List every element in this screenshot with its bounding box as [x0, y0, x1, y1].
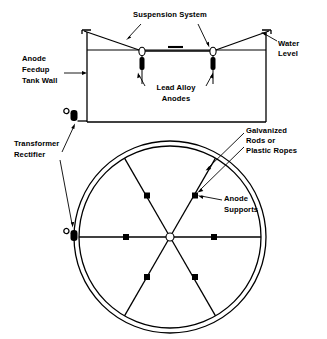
label-transformer-line1: Transformer [14, 139, 59, 148]
label-galvanized-line1: Galvanized [246, 126, 287, 135]
label-transformer-line2: Rectifier [14, 150, 45, 159]
lead-alloy-anode-right [211, 57, 216, 70]
label-galvanized-line2: Rods or [246, 136, 275, 145]
rectifier-terminal-elevation [64, 108, 69, 113]
label-anode-feedup-line3: Tank Wall [22, 76, 58, 85]
plan-view [60, 124, 266, 334]
diagram-canvas: Suspension System Water Level Anode Feed… [0, 0, 327, 339]
leader-anode-supports [201, 196, 222, 200]
plan-anode-marker-6 [192, 193, 198, 199]
arrowhead-transformer-upper [71, 124, 75, 130]
leader-transformer-upper [62, 126, 74, 152]
label-anode-feedup-line2: Feedup [22, 65, 50, 74]
label-water-level-line1: Water [278, 39, 299, 48]
lead-alloy-anode-left [140, 57, 145, 70]
label-lead-alloy-line1: Lead Alloy [156, 83, 196, 92]
leader-galvanized-upper [208, 133, 244, 168]
suspension-cable-left [84, 31, 142, 51]
leader-suspension-left [128, 24, 141, 38]
label-anode-feedup-line1: Anode [22, 54, 46, 63]
arrowhead-anode-supports [198, 196, 203, 199]
transformer-rectifier-elevation [64, 108, 87, 121]
label-suspension-system: Suspension System [133, 10, 207, 19]
rectifier-terminal-plan [64, 228, 69, 233]
label-anode-supports-line1: Anode [224, 194, 248, 203]
plan-anode-marker-5 [144, 193, 150, 199]
label-anode-supports-line2: Supports [224, 205, 258, 214]
plan-center-hub [166, 233, 174, 241]
suspension-loop-right [210, 47, 216, 55]
suspension-cable-right [213, 31, 269, 51]
rectifier-body-plan [71, 230, 78, 241]
leader-suspension-right [198, 24, 208, 45]
label-galvanized-line3: Plastic Ropes [246, 146, 297, 155]
elevation-view [64, 24, 277, 122]
plan-anode-marker-2 [192, 274, 198, 280]
arrowhead-transformer-lower [71, 222, 74, 228]
label-water-level-line2: Level [278, 49, 298, 58]
technical-diagram: Suspension System Water Level Anode Feed… [0, 0, 327, 339]
plan-anode-marker-4 [123, 234, 129, 240]
arrowhead-anode-feedup [82, 71, 87, 75]
transformer-rectifier-plan [64, 228, 78, 241]
plan-anode-marker-1 [211, 234, 217, 240]
label-lead-alloy-line2: Anodes [162, 94, 190, 103]
arrowhead-suspension-left [126, 36, 131, 40]
plan-anode-marker-3 [144, 274, 150, 280]
rectifier-body-elevation [71, 110, 78, 121]
suspension-loop-left [139, 47, 145, 55]
diagram-labels: Suspension System Water Level Anode Feed… [14, 10, 299, 214]
leader-transformer-lower [60, 160, 72, 224]
